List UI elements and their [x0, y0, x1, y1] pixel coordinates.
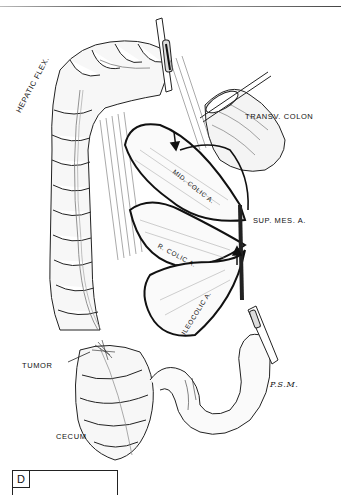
- label-tumor: TUMOR: [22, 361, 53, 370]
- artist-signature: P.S.M.: [270, 380, 298, 389]
- label-cecum: CECUM: [56, 432, 87, 441]
- next-panel-thumbnail: D: [12, 470, 118, 495]
- transverse-colon: [200, 72, 285, 171]
- label-superior-mesenteric-artery: SUP. MES. A.: [253, 216, 306, 225]
- label-transverse-colon: TRANSV. COLON: [245, 112, 313, 121]
- terminal-ileum: [150, 334, 270, 434]
- panel-letter: D: [13, 471, 30, 488]
- cecum: [75, 345, 153, 460]
